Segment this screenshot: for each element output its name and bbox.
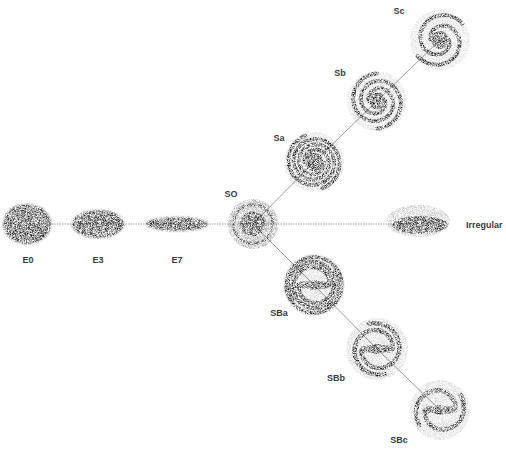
label-irregular: Irregular bbox=[466, 220, 503, 230]
label-sc: Sc bbox=[393, 6, 404, 16]
label-sa: Sa bbox=[273, 133, 284, 143]
galaxy-sb-icon bbox=[347, 71, 407, 131]
label-e3: E3 bbox=[92, 255, 103, 265]
galaxy-irr-icon bbox=[386, 205, 450, 237]
galaxy-s0-icon bbox=[228, 199, 278, 249]
galaxy-sc-icon bbox=[410, 10, 470, 70]
galaxy-sbb-icon bbox=[346, 318, 408, 380]
galaxy-sba-icon bbox=[283, 254, 345, 316]
galaxy-glyphs bbox=[3, 10, 470, 440]
label-sb: Sb bbox=[334, 68, 346, 78]
galaxy-e0-icon bbox=[3, 204, 51, 244]
galaxy-e3-icon bbox=[72, 210, 124, 238]
label-sbb: SBb bbox=[327, 373, 345, 383]
label-e0: E0 bbox=[22, 255, 33, 265]
galaxy-e7-icon bbox=[146, 217, 208, 231]
label-sba: SBa bbox=[270, 308, 288, 318]
hubble-tuning-fork-diagram: E0 E3 E7 SO Sa Sb Sc SBa SBb SBc Irregul… bbox=[0, 0, 506, 455]
galaxy-sa-icon bbox=[284, 132, 344, 192]
label-s0: SO bbox=[224, 189, 237, 199]
diagram-canvas bbox=[0, 0, 506, 455]
label-sbc: SBc bbox=[390, 435, 408, 445]
label-e7: E7 bbox=[171, 255, 182, 265]
galaxy-sbc-icon bbox=[410, 380, 470, 440]
